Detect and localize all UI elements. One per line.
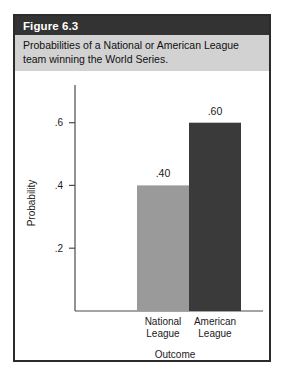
x-axis-title-svg: Outcome — [15, 344, 269, 362]
y-tick-label-2: .2 — [55, 243, 64, 254]
category-label-american-line1: American — [194, 316, 236, 327]
figure-title-band: Figure 6.3 — [15, 16, 269, 35]
figure-card: Figure 6.3 Probabilities of a National o… — [13, 14, 271, 362]
y-axis-title: Probability — [26, 180, 37, 227]
bar-national-league[interactable] — [137, 185, 189, 311]
figure-caption-band: Probabilities of a National or American … — [15, 35, 269, 71]
bar-chart-svg: .6 .4 .2 Probability .40 .60 National Le… — [15, 71, 269, 346]
bar-value-label-american: .60 — [208, 105, 223, 117]
y-axis-ticks: .6 .4 .2 — [55, 117, 75, 254]
y-tick-label-1: .4 — [55, 180, 64, 191]
y-tick-label-0: .6 — [55, 117, 64, 128]
x-axis-category-labels: National League American League — [145, 316, 236, 339]
x-axis-title: Outcome — [155, 349, 196, 360]
figure-caption: Probabilities of a National or American … — [23, 39, 261, 66]
figure-label: Figure 6.3 — [23, 20, 78, 32]
chart-plot-area: .6 .4 .2 Probability .40 .60 National Le… — [15, 71, 269, 346]
bar-value-label-national: .40 — [156, 167, 171, 179]
category-label-american-line2: League — [198, 328, 232, 339]
bar-american-league[interactable] — [189, 123, 241, 311]
category-label-national-line1: National — [145, 316, 182, 327]
category-label-national-line2: League — [146, 328, 180, 339]
